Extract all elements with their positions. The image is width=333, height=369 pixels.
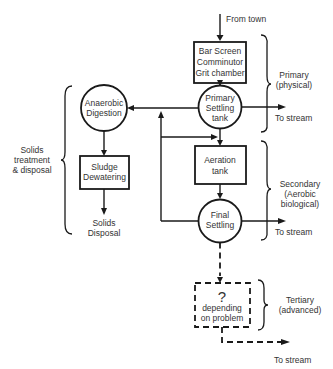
arrowhead-icon xyxy=(217,193,223,199)
bar-screen-box: Bar Screen Comminutor Grit chamber xyxy=(194,42,246,83)
svg-text:treatment: treatment xyxy=(14,155,51,165)
anaerobic-digestion: Anaerobic Digestion xyxy=(81,85,127,131)
secondary-to-stream-label: To stream xyxy=(275,227,312,237)
svg-text:Tertiary: Tertiary xyxy=(286,295,315,305)
primary-stage-label: Primary (physical) xyxy=(276,70,313,90)
from-town-label: From town xyxy=(226,14,266,24)
tertiary-box: ? depending on problem xyxy=(195,283,250,327)
svg-text:Aeration: Aeration xyxy=(204,155,236,165)
svg-text:Sludge: Sludge xyxy=(91,162,118,172)
svg-text:Solids: Solids xyxy=(20,145,43,155)
svg-text:biological): biological) xyxy=(281,199,319,209)
svg-text:& disposal: & disposal xyxy=(12,165,51,175)
primary-stage-brace xyxy=(261,35,271,132)
svg-text:Disposal: Disposal xyxy=(88,228,121,238)
svg-text:Settling: Settling xyxy=(206,220,235,230)
svg-text:Primary: Primary xyxy=(205,93,235,103)
svg-text:Bar Screen: Bar Screen xyxy=(199,46,242,56)
svg-text:depending: depending xyxy=(202,303,242,313)
svg-text:Solids: Solids xyxy=(92,218,115,228)
svg-text:Final: Final xyxy=(211,210,230,220)
svg-text:on problem: on problem xyxy=(201,313,244,323)
svg-text:tank: tank xyxy=(212,166,229,176)
solids-stage-label: Solids treatment & disposal xyxy=(12,145,51,175)
svg-text:tank: tank xyxy=(212,113,229,123)
arrowhead-icon xyxy=(281,339,290,345)
sludge-dewatering-box: Sludge Dewatering xyxy=(80,156,129,189)
arrowhead-icon xyxy=(158,111,164,118)
tertiary-stage-brace xyxy=(258,280,268,330)
final-settling-tank: Final Settling xyxy=(199,200,242,243)
svg-text:Anaerobic: Anaerobic xyxy=(85,98,124,108)
secondary-stage-label: Secondary (Aerobic biological) xyxy=(280,179,321,209)
tertiary-to-stream-dashed-line xyxy=(222,327,283,342)
arrowhead-icon xyxy=(211,134,218,140)
solids-stage-brace xyxy=(61,86,72,234)
tertiary-stage-label: Tertiary (advanced) xyxy=(279,295,322,315)
svg-text:Dewatering: Dewatering xyxy=(83,172,126,182)
svg-text:(Aerobic: (Aerobic xyxy=(284,189,316,199)
primary-settling-tank: Primary Settling tank xyxy=(199,86,242,129)
solids-disposal-label: Solids Disposal xyxy=(88,218,121,238)
arrowhead-icon xyxy=(278,218,286,224)
aeration-tank-box: Aeration tank xyxy=(195,146,246,184)
svg-text:(advanced): (advanced) xyxy=(279,305,322,315)
svg-text:Comminutor: Comminutor xyxy=(197,57,243,67)
primary-to-stream-label: To stream xyxy=(275,113,312,123)
svg-text:Grit chamber: Grit chamber xyxy=(195,68,244,78)
svg-text:(physical): (physical) xyxy=(276,80,313,90)
svg-text:Digestion: Digestion xyxy=(86,108,122,118)
wastewater-treatment-flowchart: From town Bar Screen Comminutor Grit cha… xyxy=(0,0,333,369)
tertiary-to-stream-label: To stream xyxy=(274,355,311,365)
svg-text:Primary: Primary xyxy=(279,70,309,80)
arrowhead-icon xyxy=(278,104,286,110)
arrowhead-icon xyxy=(217,35,224,41)
svg-text:Settling: Settling xyxy=(206,103,235,113)
arrowhead-icon xyxy=(127,105,134,111)
arrowhead-icon xyxy=(101,208,107,215)
svg-text:Secondary: Secondary xyxy=(280,179,321,189)
secondary-stage-brace xyxy=(261,141,271,240)
